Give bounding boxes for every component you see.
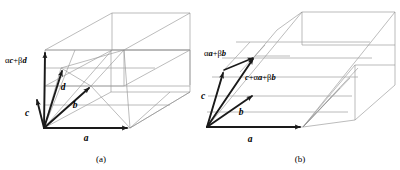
label-vector-d-panel-a: d <box>61 82 66 92</box>
label-vector-b-panel-a: b <box>73 100 78 110</box>
vector-alpha-c-beta-d-arrow <box>44 53 45 128</box>
label-vector-a-panel-a: a <box>84 133 89 143</box>
vector-b-arrow-b <box>207 96 252 127</box>
label-alpha-a-beta-b: αa+βb <box>204 48 226 58</box>
panel-b-vectors <box>207 58 300 127</box>
panel-a-wireframe <box>44 13 190 128</box>
label-vector-a-panel-b: a <box>248 134 253 144</box>
vector-c-arrow-b <box>207 73 223 127</box>
vector-space-figure: a b c d αc+βd (a) <box>0 0 400 170</box>
caption-panel-a: (a) <box>96 154 106 164</box>
vector-c-arrow <box>37 100 44 128</box>
figure-container: a b c d αc+βd (a) <box>0 0 400 170</box>
vector-alpha-a-beta-b-arrow <box>207 59 253 127</box>
glyph-b-2: b <box>222 48 226 58</box>
glyph-b-3: b <box>271 72 275 82</box>
glyph-d-1: d <box>22 55 27 65</box>
label-alpha-c-beta-d: αc+βd <box>5 55 27 65</box>
label-c-alpha-a-beta-b: c+αa+βb <box>245 72 276 82</box>
panel-a-vectors <box>37 53 127 128</box>
label-vector-b-panel-b: b <box>239 107 244 117</box>
label-vector-c-panel-b: c <box>201 91 206 101</box>
label-vector-c-panel-a: c <box>25 108 30 118</box>
caption-panel-b: (b) <box>295 154 306 164</box>
panel-b-wireframe <box>207 12 395 127</box>
